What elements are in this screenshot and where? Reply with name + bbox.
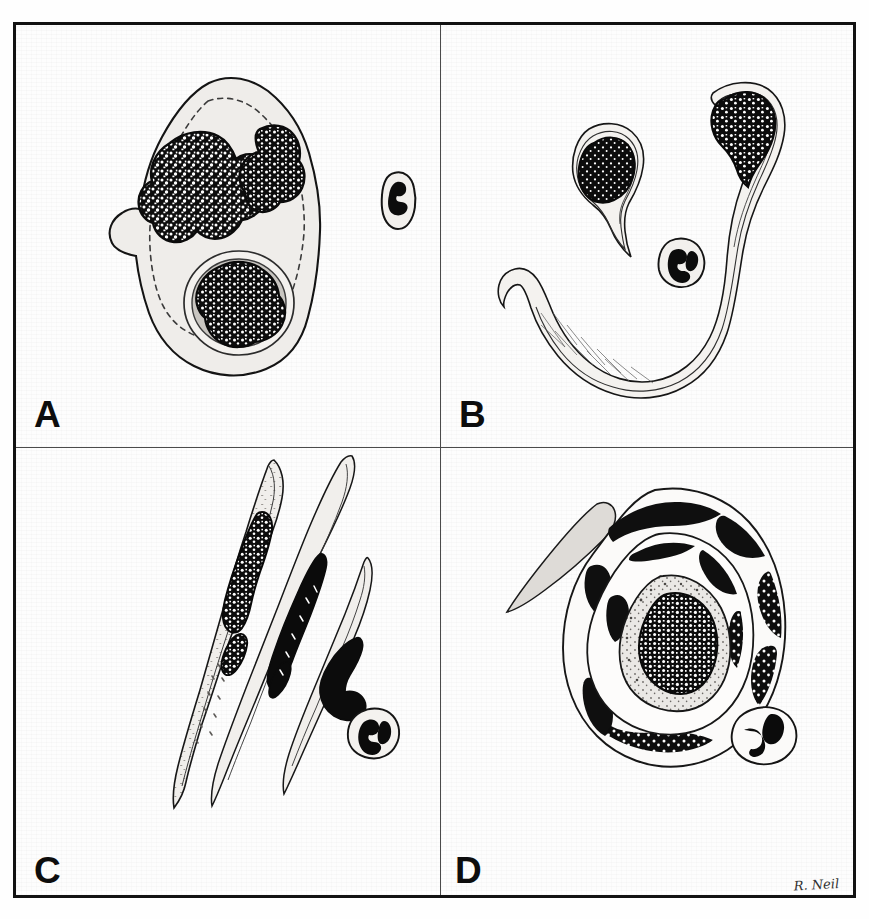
- panel-a-label: A: [34, 396, 61, 433]
- panel-d-label: D: [455, 852, 482, 889]
- reference-leukocyte: [732, 707, 797, 764]
- reference-leukocyte: [658, 239, 704, 288]
- artist-signature: R. Neil: [793, 876, 839, 893]
- tadpole-cell-upper-left: [573, 124, 644, 257]
- panel-d-drawing: [441, 448, 853, 895]
- panel-a: A Large binucleated malignant cell with …: [16, 25, 440, 447]
- reference-leukocyte: [348, 709, 399, 759]
- panel-a-drawing: [16, 25, 440, 447]
- panel-c: C Three elongated spindle / fiber cells …: [16, 448, 440, 895]
- panel-b: B Two tadpole / fiber cells with dense e…: [441, 25, 853, 447]
- tadpole-cell-upper-right: [498, 83, 785, 398]
- plate-frame: A Large binucleated malignant cell with …: [13, 22, 856, 898]
- panel-b-drawing: [441, 25, 853, 447]
- panel-c-label: C: [34, 852, 61, 889]
- cytology-plate: A Large binucleated malignant cell with …: [0, 0, 869, 919]
- panel-b-label: B: [459, 396, 486, 433]
- panel-d: D Concentric squamous pearl with keratin…: [441, 448, 853, 895]
- reference-leukocyte: [382, 172, 416, 229]
- panel-c-drawing: [16, 448, 440, 895]
- pearl-nucleus: [639, 593, 717, 694]
